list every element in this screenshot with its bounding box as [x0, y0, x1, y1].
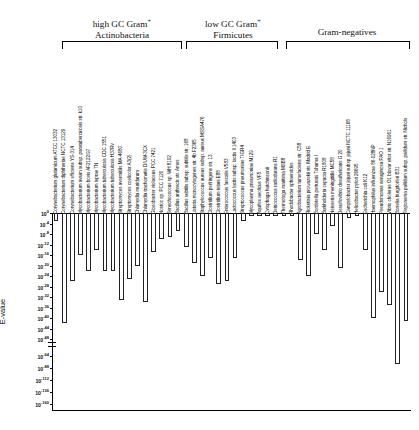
group-title-line2: Firmicutes: [178, 30, 288, 41]
bar: [355, 213, 360, 216]
y-axis-tick-label: 10-44: [37, 325, 49, 333]
bar: [168, 213, 173, 237]
y-axis-tick-label: 10-36: [37, 304, 49, 312]
species-tick-label: Corynebacterium glutamicum ATCC 13032: [53, 129, 58, 214]
y-axis-tick-label: 10-16: [37, 251, 49, 259]
species-tick-label: Cytophaga hutchinsonii: [265, 167, 270, 214]
species-tick-label: Corynebacterium efficiens YS-314: [70, 146, 75, 214]
y-axis-tick-label: 10-24: [37, 272, 49, 280]
species-tick-label: Clostridium tetani E88: [216, 170, 221, 214]
species-tick-label: Neisseria meningitidis MC58: [330, 157, 335, 214]
bar: [387, 213, 392, 305]
group-title-line2: Actinobacteria: [62, 30, 182, 41]
species-tick-label: Synechococcus sp. WH 8102: [167, 155, 172, 214]
y-axis-tick-label: 10-160: [35, 400, 49, 408]
species-tick-label: Nostoc sp. PCC 7120: [159, 171, 164, 214]
species-tick-label: Listeria monocytogenes str. 4b F2365: [192, 139, 197, 214]
species-tick-label: Streptomyces avermitilis MA-4680: [118, 146, 123, 214]
species-tick-label: Rickettsia prowazekii str. Madrid E: [306, 146, 311, 214]
group-header-gram-negatives: Gram-negatives: [282, 27, 412, 38]
bar: [371, 213, 376, 318]
species-tick-label: Haemophilus influenzae 86-028NP: [371, 145, 376, 214]
species-tick-label: Escherichia coli K12: [363, 174, 368, 214]
evalue-bar-chart-figure: high GC Gram+ Actinobacteria low GC Gram…: [0, 0, 419, 430]
bar: [395, 213, 400, 364]
y-axis-tick-label: 10-28: [37, 283, 49, 291]
species-tick-label: Chlamydia muridarum: [135, 170, 140, 214]
bar: [184, 213, 189, 247]
species-tick-label: Thermotoga maritima MSB8: [281, 158, 286, 214]
bar: [233, 213, 238, 258]
bar: [314, 213, 319, 234]
species-tick-label: Campylobacter jejuni subsp. jejuni NCTC …: [346, 119, 351, 214]
group-bracket-firmicutes: [186, 41, 278, 49]
group-title-line1: low GC Gram+: [178, 16, 288, 30]
species-tick-label: Borrelia burgdorferi B31: [395, 166, 400, 214]
species-tick-label: Mycobacterium leprae TN: [94, 163, 99, 214]
y-axis-tick-label: 10-112: [35, 376, 49, 384]
bar: [151, 213, 156, 252]
bar: [103, 213, 108, 271]
plot-area: [52, 213, 410, 410]
bar: [265, 213, 270, 216]
bar: [241, 213, 246, 221]
y-axis-tick-label: 10-4: [40, 220, 49, 228]
bar: [127, 213, 132, 279]
bar: [347, 213, 352, 218]
gram-plus-superscript: +: [257, 17, 261, 25]
group-bracket-actinobacteria: [62, 41, 182, 49]
species-tick-label: Bordetella pertussis Tohama I: [314, 155, 319, 214]
bar: [200, 213, 205, 276]
bar: [338, 213, 343, 268]
bar: [111, 213, 116, 271]
bar: [298, 213, 303, 260]
species-tick-label: Bacillus anthracis str. Ames: [175, 159, 180, 214]
bar: [282, 213, 287, 216]
gram-plus-superscript: +: [147, 17, 151, 25]
bar: [159, 213, 164, 239]
species-tick-label: Enterococcus faecalis V583: [224, 159, 229, 214]
y-axis-tick-label: 10-40: [37, 314, 49, 322]
y-axis-tick-label: 100: [41, 209, 49, 217]
bar: [54, 213, 59, 221]
bar: [257, 213, 262, 216]
species-tick-label: Mycobacterium tuberculosis H37Rv: [110, 143, 115, 214]
bar: [208, 213, 213, 258]
y-axis-tick-label: 10-20: [37, 262, 49, 270]
species-tick-label: Mycobacterium bovis AF2122/97: [86, 149, 91, 214]
species-tick-label: Burkholderia cepacia R1808: [322, 158, 327, 214]
species-tick-label: Pseudomonas aeruginosa PAO 1: [379, 148, 384, 214]
species-tick-label: Lactococcus lactis subsp. lactis Il 1403: [232, 137, 237, 214]
species-tick-label: Desulfovibrio desulfuricans G 20: [338, 149, 343, 214]
species-tick-label: Deinococcus radiodurans R1: [273, 156, 278, 214]
species-tick-label: Staphylococcus aureus subsp. aureus MSSA…: [200, 117, 205, 214]
species-tick-label: Corynebacterium diphtheriae NCTC 13129: [61, 129, 66, 214]
group-header-actinobacteria: high GC Gram+ Actinobacteria: [62, 16, 182, 40]
bar: [176, 213, 181, 231]
group-header-firmicutes: low GC Gram+ Firmicutes: [178, 16, 288, 40]
bar: [363, 213, 368, 250]
y-axis-tick-label: 10-64: [37, 352, 49, 360]
bar: [143, 213, 148, 302]
species-tick-label: Agrobacterium tumefaciens str. C58: [297, 143, 302, 214]
species-tick-label: Mycobacterium tuberculosis CDC 1551: [102, 136, 107, 214]
bar: [216, 213, 221, 284]
bar: [249, 213, 254, 216]
bar: [306, 213, 311, 276]
bar: [94, 213, 99, 250]
species-tick-label: Gloeobacter violaceus PCC 7421: [151, 148, 156, 214]
y-axis-tick-label: 10-32: [37, 293, 49, 301]
y-axis-tick-label: 10-136: [35, 388, 49, 396]
bar: [70, 213, 75, 281]
bar: [290, 213, 295, 216]
bar: [78, 213, 83, 255]
bar: [86, 213, 91, 271]
species-tick-labels: Corynebacterium glutamicum ATCC 13032Cor…: [0, 52, 419, 214]
bar: [330, 213, 335, 226]
bar: [273, 213, 278, 216]
group-title-line1: high GC Gram+: [62, 16, 182, 30]
species-tick-label: Rhodobacter sphaeroides: [289, 163, 294, 214]
group-header-band: high GC Gram+ Actinobacteria low GC Gram…: [0, 0, 419, 60]
species-tick-label: Mycobacterium avium subsp. paratuberculo…: [78, 106, 83, 214]
group-title-line2: Gram-negatives: [282, 27, 412, 38]
